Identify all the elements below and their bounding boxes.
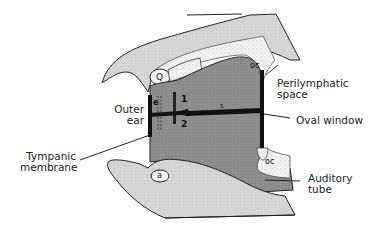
oc-top-label: oc [250,62,259,70]
perilymphatic-space-label: Perilymphatic space [277,78,349,100]
middle-ear-diagram: oc oc Q a e 1 2 s Outer ear Tympanic mem… [0,0,374,227]
tympanic-membrane-leader [80,135,150,160]
label-2: 2 [181,120,187,128]
auditory-tube-label: Auditory tube [308,173,353,195]
outer-ear-label: Outer ear [106,104,144,126]
oc-bottom-label: oc [265,158,274,166]
a-label: a [157,172,162,180]
oval-window-label: Oval window [296,115,363,126]
tympanic-membrane-label: Tympanic membrane [20,151,76,173]
q-label: Q [156,73,163,81]
s-label: s [220,102,224,110]
label-1: 1 [181,95,187,103]
e-label: e [153,99,158,107]
oval-window-leader [264,114,290,118]
oval-window-bar [260,70,264,155]
